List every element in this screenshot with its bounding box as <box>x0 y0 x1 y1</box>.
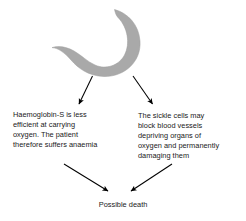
sickle-cell-consequences-diagram: Haemoglobin-S is less efficient at carry… <box>0 0 246 221</box>
sickle-cell-icon <box>52 10 140 77</box>
effect-anaemia-label: Haemoglobin-S is less efficient at carry… <box>13 110 125 150</box>
arrow-left-to-death <box>64 164 108 191</box>
arrow-cell-to-right <box>133 76 153 104</box>
arrow-cell-to-left <box>79 76 93 104</box>
outcome-possible-death-label: Possible death <box>0 200 246 210</box>
effect-blocked-vessels-label: The sickle cells may block blood vessels… <box>138 111 238 161</box>
arrow-right-to-death <box>131 164 172 191</box>
